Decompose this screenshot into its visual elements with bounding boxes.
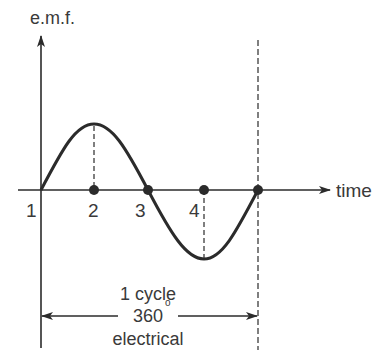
degree-symbol: o xyxy=(165,297,171,308)
x-axis-label: time xyxy=(336,180,372,201)
point-3-marker xyxy=(143,185,153,195)
electrical-label: electrical xyxy=(112,329,183,349)
point-2-marker xyxy=(89,185,99,195)
y-axis-label: e.m.f. xyxy=(30,8,75,28)
point-4-marker xyxy=(199,185,209,195)
point-3-label: 3 xyxy=(135,200,146,221)
point-2-label: 2 xyxy=(88,200,99,221)
cycle-end-marker xyxy=(253,185,263,195)
point-1-label: 1 xyxy=(26,200,37,221)
emf-sine-diagram: e.m.f. time 1 2 3 4 1 cycle 360 o electr… xyxy=(0,0,386,354)
point-4-label: 4 xyxy=(189,200,200,221)
degrees-label: 360 xyxy=(133,306,163,326)
